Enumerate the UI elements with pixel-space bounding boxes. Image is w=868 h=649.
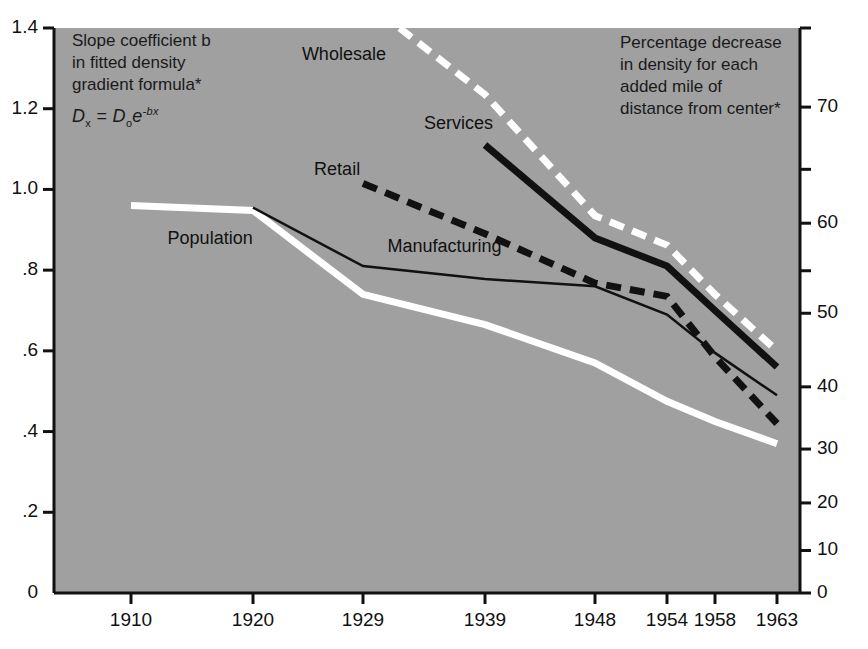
y-axis-tick-label-left: .2	[0, 500, 38, 522]
formula-dx: D	[72, 106, 85, 126]
y-axis-tick-label-left: 1.4	[0, 16, 38, 38]
x-axis-tick-label: 1929	[328, 609, 398, 631]
y-axis-tick-label-left: 1.0	[0, 177, 38, 199]
x-axis-tick-label: 1920	[218, 609, 288, 631]
right-note-line-1: Percentage decrease	[620, 32, 782, 54]
x-axis-tick-label: 1963	[742, 609, 812, 631]
left-note-line-2: in fitted density	[72, 52, 211, 74]
y-axis-tick-label-right: 20	[817, 491, 838, 513]
left-annotation-note: Slope coefficient b in fitted density gr…	[72, 30, 211, 134]
x-axis-tick-label: 1958	[680, 609, 750, 631]
right-annotation-note: Percentage decrease in density for each …	[620, 32, 782, 120]
x-axis-tick-label: 1939	[450, 609, 520, 631]
series-label-population: Population	[168, 228, 253, 249]
y-axis-tick-label-right: 10	[817, 538, 838, 560]
y-axis-tick-label-left: .6	[0, 339, 38, 361]
right-note-line-4: distance from center*	[620, 98, 782, 120]
y-axis-tick-label-right: 50	[817, 301, 838, 323]
series-label-services: Services	[424, 113, 493, 134]
x-axis-tick-label: 1910	[96, 609, 166, 631]
y-axis-tick-label-right: 70	[817, 95, 838, 117]
y-axis-tick-label-right: 0	[817, 581, 828, 603]
y-axis-tick-label-left: .8	[0, 258, 38, 280]
series-label-wholesale: Wholesale	[302, 44, 386, 65]
left-note-line-3: gradient formula*	[72, 74, 211, 96]
y-axis-tick-label-right: 40	[817, 375, 838, 397]
y-axis-tick-label-left: .4	[0, 420, 38, 442]
series-line-manufacturing	[253, 208, 777, 396]
left-note-line-1: Slope coefficient b	[72, 30, 211, 52]
density-gradient-formula: Dx = Doe-bx	[72, 100, 211, 134]
x-axis-tick-label: 1948	[560, 609, 630, 631]
series-label-retail: Retail	[314, 159, 360, 180]
formula-e: e	[132, 106, 142, 126]
chart-figure: Slope coefficient b in fitted density gr…	[0, 0, 868, 649]
right-note-line-2: in density for each	[620, 54, 782, 76]
formula-equals: =	[96, 106, 107, 126]
formula-d0: D	[113, 106, 126, 126]
series-label-manufacturing: Manufacturing	[387, 236, 501, 257]
formula-dx-sub: x	[85, 117, 91, 129]
y-axis-tick-label-left: 1.2	[0, 97, 38, 119]
formula-exponent: -bx	[143, 105, 159, 117]
y-axis-tick-label-right: 60	[817, 211, 838, 233]
right-note-line-3: added mile of	[620, 76, 782, 98]
y-axis-tick-label-left: 0	[0, 581, 38, 603]
y-axis-tick-label-right: 30	[817, 437, 838, 459]
